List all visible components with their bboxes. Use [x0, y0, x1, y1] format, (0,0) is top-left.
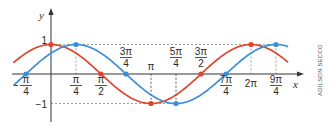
data-point: [48, 42, 53, 47]
y-axis-label: y: [38, 9, 44, 21]
x-tick-9π/4: 9π4: [270, 74, 283, 97]
tick-denominator: 2: [198, 58, 204, 69]
x-tick-3π/2: 3π2: [195, 46, 208, 69]
data-point: [173, 101, 178, 106]
axes: xy: [12, 8, 304, 122]
x-axis-arrow-icon: [297, 71, 304, 76]
x-tick-7π/4: 7π4: [220, 74, 233, 97]
tick-numerator: π: [98, 74, 105, 85]
x-tick-3π/4: 3π4: [120, 46, 133, 69]
x-tick--π/4: π4: [14, 74, 32, 97]
x-tick-2π: 2π: [245, 78, 258, 89]
y-tick-label: −1: [36, 99, 48, 110]
tick-denominator: 4: [23, 86, 29, 97]
trig-chart: xy π4π4π23π4π5π43π27π42π9π41−1 ADILSON S…: [0, 0, 334, 128]
data-point: [198, 71, 203, 76]
tick-denominator: 2: [98, 86, 104, 97]
x-tick-π/4: π4: [70, 74, 82, 97]
tick-denominator: 4: [73, 86, 79, 97]
tick-numerator: π: [23, 74, 30, 85]
tick-denominator: 4: [273, 86, 279, 97]
y-axis-arrow-icon: [48, 8, 53, 15]
photo-credit: ADILSON SECCO: [317, 44, 323, 96]
tick-numerator: 3π: [120, 46, 133, 57]
tick-numerator: 7π: [220, 74, 233, 85]
data-point: [248, 42, 253, 47]
data-point: [123, 71, 128, 76]
tick-denominator: 4: [173, 58, 179, 69]
tick-numerator: 5π: [170, 46, 183, 57]
data-point: [148, 101, 153, 106]
tick-numerator: 9π: [270, 74, 283, 85]
x-tick-5π/4: 5π4: [170, 46, 183, 69]
tick-numerator: 3π: [195, 46, 208, 57]
x-tick-π: π: [148, 61, 155, 72]
data-point: [73, 42, 78, 47]
tick-denominator: 4: [223, 86, 229, 97]
x-axis-label: x: [292, 78, 298, 90]
tick-denominator: 4: [123, 58, 129, 69]
tick-label: π: [148, 61, 155, 72]
tick-numerator: π: [73, 74, 80, 85]
data-point: [273, 42, 278, 47]
tick-label: 2π: [245, 78, 258, 89]
y-tick-label: 1: [41, 35, 47, 46]
